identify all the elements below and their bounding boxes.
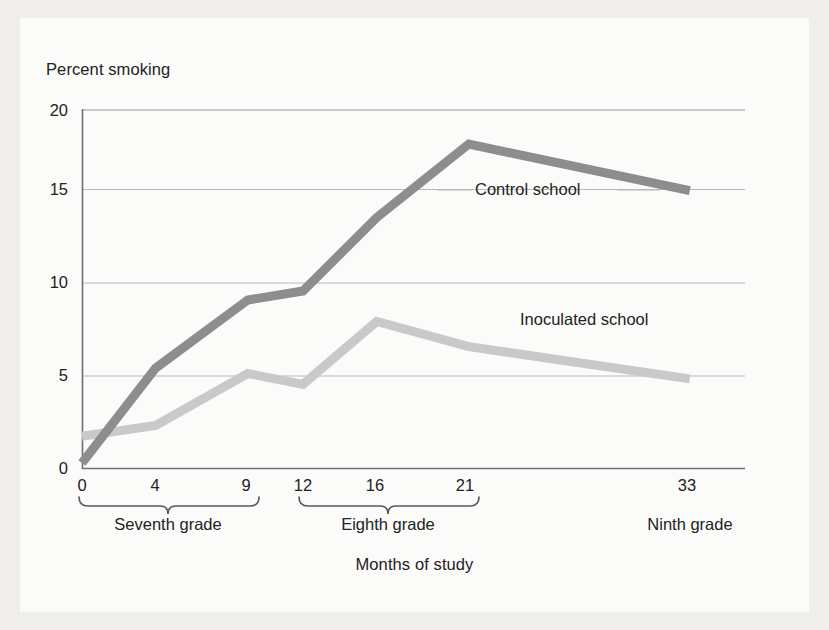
- grade-brackets: [79, 497, 479, 514]
- y-tick-label-20: 20: [32, 101, 68, 120]
- x-tick-label-33: 33: [667, 476, 707, 495]
- series-line-inoculated-school: [82, 322, 690, 437]
- y-tick-label-15: 15: [32, 180, 68, 199]
- y-axis-title: Percent smoking: [46, 60, 170, 79]
- x-tick-label-12: 12: [283, 476, 323, 495]
- y-tick-label-10: 10: [32, 273, 68, 292]
- x-tick-label-4: 4: [135, 476, 175, 495]
- bracket-seventh-grade: [79, 497, 259, 514]
- grade-label-seventh: Seventh grade: [88, 515, 248, 534]
- x-tick-label-0: 0: [62, 476, 102, 495]
- grade-label-eighth: Eighth grade: [308, 515, 468, 534]
- x-tick-label-21: 21: [445, 476, 485, 495]
- line-chart: [0, 0, 829, 630]
- grade-label-ninth: Ninth grade: [610, 515, 770, 534]
- x-tick-label-9: 9: [226, 476, 266, 495]
- series-label-inoculated-school: Inoculated school: [520, 310, 648, 329]
- x-tick-label-16: 16: [355, 476, 395, 495]
- chart-page: Percent smoking 20 15 10 5 0 0 4 9 12 16…: [0, 0, 829, 630]
- series-label-control-school: Control school: [475, 180, 580, 199]
- y-tick-label-5: 5: [32, 366, 68, 385]
- bracket-eighth-grade: [299, 497, 479, 514]
- x-axis-title: Months of study: [0, 555, 829, 574]
